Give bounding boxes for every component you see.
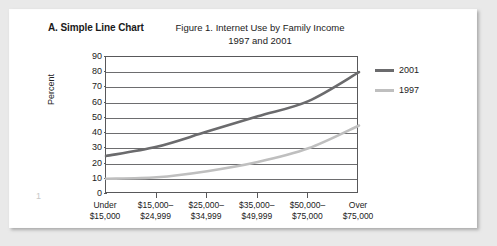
series-line-1997 [106, 126, 359, 179]
y-tick-label: 70 [70, 81, 102, 91]
legend-item-1997: 1997 [375, 83, 465, 103]
y-tick-label: 90 [70, 51, 102, 61]
y-tick-label: 30 [70, 142, 102, 152]
x-tick-mark [156, 193, 157, 198]
y-tick-label: 40 [70, 127, 102, 137]
figure-card: A. Simple Line Chart Figure 1. Internet … [9, 9, 477, 228]
y-tick-label: 60 [70, 97, 102, 107]
screenshot-root: A. Simple Line Chart Figure 1. Internet … [0, 0, 497, 246]
legend-swatch-2001 [375, 69, 394, 72]
legend-swatch-1997 [375, 89, 394, 92]
x-tick-mark [307, 193, 308, 198]
plot-area [105, 56, 358, 193]
x-tick-mark [206, 193, 207, 198]
x-tick-mark [257, 193, 258, 198]
y-axis-title: Percent [46, 74, 56, 105]
y-tick-label: 50 [70, 112, 102, 122]
x-tick-label-line-1: Over [326, 200, 390, 211]
legend-item-2001: 2001 [375, 63, 465, 83]
y-tick-label: 0 [70, 188, 102, 198]
legend-label-2001: 2001 [399, 63, 419, 77]
y-axis-tick-labels: 0102030405060708090 [70, 50, 102, 199]
y-tick-label: 80 [70, 66, 102, 76]
x-tick-label-line-2: $75,000 [326, 211, 390, 222]
series-lines [106, 57, 359, 194]
x-tick-label: Over$75,000 [326, 200, 390, 222]
legend-label-1997: 1997 [399, 83, 419, 97]
y-tick-label: 10 [70, 173, 102, 183]
line-chart: Percent 0102030405060708090 Under$15,000… [10, 10, 478, 229]
y-tick-label: 20 [70, 158, 102, 168]
chart-legend: 2001 1997 [375, 63, 465, 103]
